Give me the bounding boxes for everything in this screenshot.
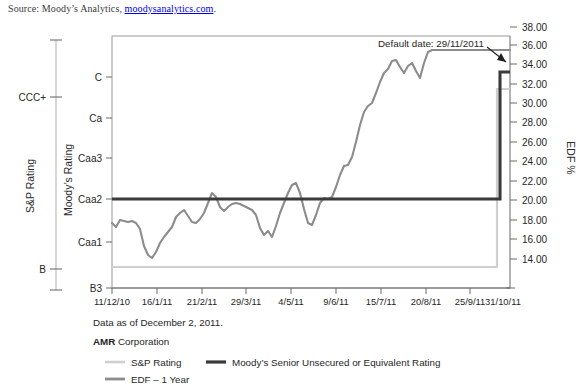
edf-axis: 38.00 36.00 34.00 32.00 30.00 28.00 26.0… bbox=[506, 22, 577, 288]
chart-page: Source: Moody’s Analytics, moodysanalyti… bbox=[0, 0, 582, 390]
moodys-tick-label-caa1: Caa1 bbox=[78, 237, 102, 248]
company-name-rest: Corporation bbox=[115, 336, 169, 347]
edf-tick-label-26: 26.00 bbox=[522, 137, 547, 148]
x-tick-label-5: 9/6/11 bbox=[323, 296, 348, 307]
edf-tick-label-36: 36.00 bbox=[522, 40, 547, 51]
legend-label-moodys-rating: Moody’s Senior Unsecured or Equivalent R… bbox=[232, 357, 440, 368]
edf-tick-label-38: 38.00 bbox=[522, 22, 547, 33]
legend-item-moodys-rating[interactable]: Moody’s Senior Unsecured or Equivalent R… bbox=[206, 357, 440, 368]
legend-label-edf-1-year: EDF – 1 Year bbox=[131, 374, 190, 385]
moodys-tick-label-caa2: Caa2 bbox=[78, 194, 102, 205]
moodys-axis-title: Moody’s Rating bbox=[62, 144, 74, 216]
edf-tick-label-34: 34.00 bbox=[522, 59, 547, 70]
company-name-bold: AMR bbox=[93, 336, 115, 347]
x-tick-label-6: 15/7/11 bbox=[366, 296, 397, 307]
data-as-of-label: Data as of December 2, 2011. bbox=[93, 317, 223, 328]
legend-item-sp-rating[interactable]: S&P Rating bbox=[105, 357, 181, 368]
moodys-tick-label-c: C bbox=[95, 72, 102, 83]
x-tick-label-7: 20/8/11 bbox=[411, 296, 442, 307]
legend-item-edf-1-year[interactable]: EDF – 1 Year bbox=[105, 374, 190, 385]
edf-tick-label-16: 16.00 bbox=[522, 234, 547, 245]
company-label: AMR Corporation bbox=[93, 336, 169, 347]
chart-svg: CCC+ B S&P Rating Moody’s Rating C Ca Ca… bbox=[0, 0, 582, 390]
x-tick-label-2: 21/2/11 bbox=[187, 296, 218, 307]
sp-tick-label-ccc-plus: CCC+ bbox=[18, 92, 46, 103]
legend-label-sp-rating: S&P Rating bbox=[131, 357, 181, 368]
x-axis: 11/12/10 16/1/11 21/2/11 29/3/11 4/5/11 … bbox=[94, 288, 521, 307]
edf-tick-label-18: 18.00 bbox=[522, 215, 547, 226]
x-tick-label-1: 16/1/11 bbox=[142, 296, 173, 307]
edf-tick-label-14: 14.00 bbox=[522, 254, 547, 265]
x-tick-label-9: 31/10/11 bbox=[485, 296, 521, 307]
moodys-tick-label-b3: B3 bbox=[90, 283, 103, 294]
edf-tick-label-20: 20.00 bbox=[522, 195, 547, 206]
edf-axis-title: EDF % bbox=[565, 141, 577, 174]
x-tick-label-8: 25/9/11 bbox=[455, 296, 486, 307]
moodys-axis: Moody’s Rating C Ca Caa3 Caa2 Caa1 B3 bbox=[62, 72, 112, 294]
default-date-annotation-label: Default date: 29/11/2011 bbox=[378, 38, 484, 49]
x-tick-label-4: 4/5/11 bbox=[278, 296, 303, 307]
plot-frame bbox=[112, 36, 510, 288]
sp-axis-title: S&P Rating bbox=[24, 159, 36, 213]
edf-tick-label-30: 30.00 bbox=[522, 98, 547, 109]
sp-axis: CCC+ B S&P Rating bbox=[18, 40, 62, 290]
moodys-tick-label-ca: Ca bbox=[89, 113, 102, 124]
moodys-tick-label-caa3: Caa3 bbox=[78, 153, 102, 164]
footer-notes: Data as of December 2, 2011. AMR Corpora… bbox=[93, 317, 223, 347]
edf-tick-label-28: 28.00 bbox=[522, 117, 547, 128]
legend: S&P Rating Moody’s Senior Unsecured or E… bbox=[105, 357, 440, 385]
edf-tick-label-22: 22.00 bbox=[522, 176, 547, 187]
x-tick-label-0: 11/12/10 bbox=[94, 296, 130, 307]
edf-tick-label-24: 24.00 bbox=[522, 156, 547, 167]
x-tick-label-3: 29/3/11 bbox=[231, 296, 262, 307]
edf-tick-label-32: 32.00 bbox=[522, 79, 547, 90]
sp-tick-label-b: B bbox=[39, 264, 46, 275]
